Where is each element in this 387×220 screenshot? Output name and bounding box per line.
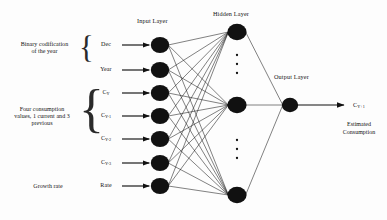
edge bbox=[168, 116, 228, 195]
group-label-growth-rate: Growth rate bbox=[19, 183, 77, 190]
hidden-layer-nodes bbox=[227, 24, 246, 204]
input-node-3 bbox=[151, 108, 169, 124]
input-node-label-base-6: Rate bbox=[100, 182, 111, 188]
edge bbox=[168, 105, 228, 116]
edge bbox=[168, 163, 228, 195]
input-node-label-subscript-2: Y bbox=[107, 91, 110, 96]
input-node-label-subscript-5: Y-3 bbox=[105, 161, 111, 166]
group-label-binary-codification: Binary codification of the year bbox=[13, 41, 76, 55]
group-label-four-consumption: Four consumption values, 1 current and 3… bbox=[6, 106, 78, 127]
input-node-2 bbox=[151, 85, 169, 101]
brace-four-consumption: { bbox=[79, 79, 104, 138]
input-layer-nodes bbox=[151, 37, 169, 194]
ellipsis-dot-0-2 bbox=[236, 72, 238, 74]
edge bbox=[168, 45, 228, 195]
neural-network-figure: Input Layer Hidden Layer Output Layer De… bbox=[0, 0, 387, 220]
edge bbox=[168, 32, 228, 186]
edges-input-hidden bbox=[168, 32, 228, 195]
ellipsis-dot-1-2 bbox=[236, 157, 238, 159]
input-node-label-5: CY-3 bbox=[93, 159, 119, 166]
input-node-5 bbox=[151, 155, 169, 171]
input-node-6 bbox=[151, 178, 169, 194]
input-arrows bbox=[122, 45, 149, 186]
ellipsis-dot-1-0 bbox=[236, 139, 238, 141]
hidden-layer-title: Hidden Layer bbox=[213, 10, 249, 17]
ellipsis-dot-0-1 bbox=[236, 63, 238, 65]
output-node bbox=[282, 98, 298, 112]
edge bbox=[168, 32, 228, 93]
input-layer-title: Input Layer bbox=[137, 17, 168, 24]
edge bbox=[168, 70, 228, 195]
input-node-label-6: Rate bbox=[93, 182, 119, 189]
output-symbol: CY+1 bbox=[353, 101, 365, 109]
edge bbox=[168, 32, 228, 139]
input-node-0 bbox=[151, 37, 169, 53]
input-node-label-base-1: Year bbox=[100, 66, 111, 72]
edge bbox=[168, 105, 228, 186]
edge bbox=[168, 32, 228, 45]
hidden-node-0 bbox=[227, 24, 246, 41]
input-node-1 bbox=[151, 62, 169, 78]
brace-binary-codification: { bbox=[79, 30, 94, 66]
input-node-label-subscript-4: Y-2 bbox=[105, 137, 111, 142]
edges-hidden-output bbox=[246, 32, 283, 195]
output-layer-title: Output Layer bbox=[274, 73, 309, 80]
input-node-label-1: Year bbox=[93, 66, 119, 73]
ellipsis-dot-1-1 bbox=[236, 148, 238, 150]
edge bbox=[168, 139, 228, 195]
edge bbox=[168, 32, 228, 163]
input-node-label-0: Dec bbox=[93, 41, 119, 48]
input-node-label-subscript-3: Y-1 bbox=[105, 114, 111, 119]
hidden-node-1 bbox=[227, 97, 246, 114]
output-layer-node bbox=[282, 98, 298, 112]
ellipsis-dot-0-0 bbox=[236, 54, 238, 56]
output-symbol-subscript: Y+1 bbox=[357, 104, 365, 109]
input-node-4 bbox=[151, 131, 169, 147]
edge bbox=[246, 105, 283, 195]
hidden-node-2 bbox=[227, 187, 246, 204]
edge bbox=[246, 32, 283, 105]
input-node-label-base-0: Dec bbox=[101, 41, 111, 47]
output-caption: Estimated Consumption bbox=[333, 120, 385, 136]
